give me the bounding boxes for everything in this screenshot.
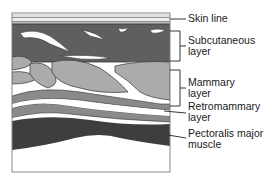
label-text: muscle bbox=[188, 138, 221, 150]
mammary-bracket bbox=[170, 70, 186, 106]
pectoralis-leader-line bbox=[168, 135, 186, 138]
label-text: layer bbox=[188, 87, 211, 99]
skin-layer bbox=[12, 14, 170, 24]
label-text: layer bbox=[188, 45, 211, 57]
label-mammary-layer: Mammary layer bbox=[188, 77, 235, 99]
label-text: Skin line bbox=[188, 12, 228, 24]
label-skin-line: Skin line bbox=[188, 13, 228, 24]
label-subcutaneous-layer: Subcutaneous layer bbox=[188, 35, 255, 57]
subcutaneous-bracket bbox=[170, 31, 186, 61]
label-pectoralis-major-muscle: Pectoralis major muscle bbox=[188, 128, 263, 150]
label-text: layer bbox=[188, 111, 211, 123]
label-retromammary-layer: Retromammary layer bbox=[188, 101, 260, 123]
